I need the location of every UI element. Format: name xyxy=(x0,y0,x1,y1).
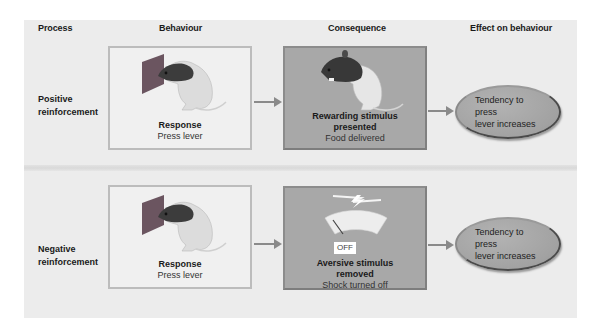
row-divider xyxy=(24,165,577,171)
effect-ellipse-negative: Tendency to press lever increases xyxy=(455,217,561,271)
shock-meter-icon xyxy=(315,194,399,236)
behaviour-caption: Response Press lever xyxy=(110,259,250,281)
behaviour-title: Response xyxy=(110,120,250,131)
row-label-line: reinforcement xyxy=(38,106,98,119)
consequence-sub: Food delivered xyxy=(285,133,425,144)
effect-line: lever increases xyxy=(475,118,541,130)
behaviour-box-negative: Response Press lever xyxy=(108,185,252,289)
row-label-line: Positive xyxy=(38,93,98,106)
header-effect: Effect on behaviour xyxy=(470,23,552,33)
arrow-behaviour-to-consequence xyxy=(254,101,280,103)
arrow-consequence-to-effect xyxy=(428,110,452,112)
effect-line: lever increases xyxy=(475,250,541,262)
effect-ellipse-positive: Tendency to press lever increases xyxy=(455,85,561,139)
row-label-line: Negative xyxy=(38,243,98,256)
row-label-negative-reinforcement: Negative reinforcement xyxy=(38,243,98,269)
consequence-title-line: removed xyxy=(285,269,425,280)
row-label-line: reinforcement xyxy=(38,256,98,269)
arrow-consequence-to-effect xyxy=(428,244,452,246)
behaviour-sub: Press lever xyxy=(110,131,250,142)
rat-pressing-lever-icon xyxy=(134,193,234,259)
effect-line: Tendency to press xyxy=(475,226,541,250)
consequence-caption: Rewarding stimulus presented Food delive… xyxy=(285,111,425,144)
arrow-behaviour-to-consequence xyxy=(254,243,280,245)
behaviour-box-positive: Response Press lever xyxy=(108,46,252,150)
effect-text: Tendency to press lever increases xyxy=(475,226,541,262)
consequence-box-positive: Rewarding stimulus presented Food delive… xyxy=(283,46,427,150)
consequence-title-line: presented xyxy=(285,122,425,133)
consequence-title-line: Rewarding stimulus xyxy=(285,111,425,122)
header-consequence: Consequence xyxy=(328,23,386,33)
rat-pressing-lever-icon xyxy=(134,52,234,118)
effect-line: Tendency to press xyxy=(475,94,541,118)
off-badge: OFF xyxy=(334,242,356,254)
consequence-box-negative: OFF Aversive stimulus removed Shock turn… xyxy=(283,186,427,290)
header-behaviour: Behaviour xyxy=(159,23,202,33)
consequence-title-line: Aversive stimulus xyxy=(285,258,425,269)
behaviour-title: Response xyxy=(110,259,250,270)
behaviour-sub: Press lever xyxy=(110,270,250,281)
header-process: Process xyxy=(38,23,72,33)
rat-eating-icon xyxy=(307,50,407,116)
behaviour-caption: Response Press lever xyxy=(110,120,250,142)
consequence-caption: Aversive stimulus removed Shock turned o… xyxy=(285,258,425,291)
row-label-positive-reinforcement: Positive reinforcement xyxy=(38,93,98,119)
consequence-sub: Shock turned off xyxy=(285,280,425,291)
effect-text: Tendency to press lever increases xyxy=(475,94,541,130)
